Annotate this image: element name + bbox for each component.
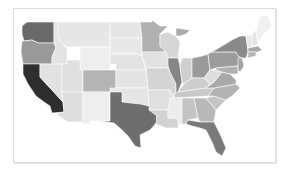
state-nebraska[interactable] bbox=[110, 54, 146, 70]
state-florida[interactable] bbox=[186, 120, 226, 156]
state-new-mexico[interactable] bbox=[83, 92, 110, 124]
state-washington[interactable] bbox=[22, 22, 54, 43]
state-connecticut[interactable] bbox=[248, 52, 256, 58]
state-michigan[interactable] bbox=[176, 28, 190, 36]
states-layer bbox=[21, 16, 272, 156]
state-montana[interactable] bbox=[58, 22, 110, 47]
state-iowa[interactable] bbox=[142, 52, 170, 68]
state-oregon[interactable] bbox=[21, 40, 56, 64]
us-choropleth-map bbox=[0, 0, 290, 182]
state-north-dakota[interactable] bbox=[110, 22, 142, 38]
state-kansas[interactable] bbox=[116, 70, 148, 88]
state-maine[interactable] bbox=[256, 16, 272, 44]
state-south-dakota[interactable] bbox=[110, 38, 142, 56]
state-new-jersey[interactable] bbox=[238, 58, 244, 72]
state-wyoming[interactable] bbox=[80, 47, 110, 70]
state-utah[interactable] bbox=[62, 60, 83, 92]
